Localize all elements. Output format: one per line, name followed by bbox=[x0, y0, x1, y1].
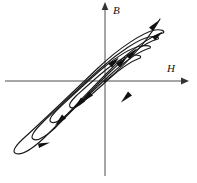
hysteresis-figure: B H bbox=[0, 0, 197, 183]
arrow-loop-right-crossing bbox=[121, 92, 132, 103]
arrow-loop4-lower bbox=[38, 142, 50, 148]
b-axis-label: B bbox=[113, 4, 120, 16]
h-axis-label: H bbox=[166, 62, 176, 74]
b-axis-arrowhead bbox=[102, 2, 109, 10]
loop-2 bbox=[50, 46, 150, 123]
arrow-loop2-lower bbox=[55, 115, 66, 126]
h-axis-arrowhead bbox=[181, 78, 189, 85]
loops-group bbox=[14, 19, 164, 154]
hysteresis-plot: B H bbox=[0, 0, 197, 183]
